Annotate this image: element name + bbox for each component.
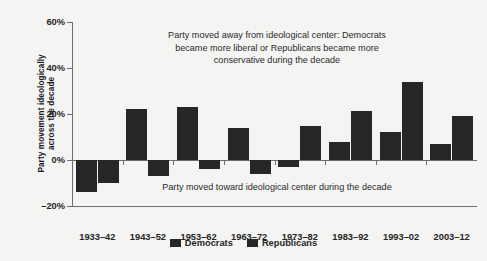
bar-republicans-1973–82	[300, 126, 321, 161]
x-tick-mark	[275, 160, 276, 165]
x-tick-mark	[325, 160, 326, 165]
y-tick-mark	[67, 160, 72, 161]
x-tick-mark	[173, 160, 174, 165]
x-tick-mark	[123, 160, 124, 165]
bar-democrats-1973–82	[278, 160, 299, 167]
y-tick-mark	[67, 22, 72, 23]
y-axis-line	[72, 22, 73, 206]
legend-item-democrats[interactable]: Democrats	[170, 238, 233, 248]
annotation-above-line-1: Party moved away from ideological center…	[112, 29, 442, 42]
legend-label: Democrats	[185, 238, 233, 248]
bar-democrats-1953–62	[177, 107, 198, 160]
x-axis-line	[72, 206, 477, 207]
bar-democrats-1983–92	[329, 142, 350, 160]
bar-republicans-2003–12	[452, 116, 473, 160]
bar-republicans-1933–42	[98, 160, 119, 183]
y-tick-mark	[67, 68, 72, 69]
y-tick-label: 40%	[46, 63, 65, 73]
y-tick-mark	[67, 206, 72, 207]
legend-item-republicans[interactable]: Republicans	[247, 238, 317, 248]
y-tick-label: –20%	[41, 201, 65, 211]
bar-democrats-1933–42	[76, 160, 97, 192]
x-tick-mark	[376, 160, 377, 165]
bar-republicans-1953–62	[199, 160, 220, 169]
y-tick-label: 0%	[52, 155, 65, 165]
chart-figure: Party movement ideologically across the …	[0, 0, 487, 261]
bar-republicans-1963–72	[250, 160, 271, 174]
annotation-above-line-2: became more liberal or Republicans becam…	[112, 42, 442, 55]
bar-democrats-2003–12	[430, 144, 451, 160]
bar-democrats-1963–72	[228, 128, 249, 160]
bar-democrats-1993–02	[380, 132, 401, 160]
legend-swatch-icon	[170, 239, 181, 247]
bar-democrats-1943–52	[126, 109, 147, 160]
y-tick-label: 20%	[46, 109, 65, 119]
annotation-below-center: Party moved toward ideological center du…	[107, 182, 447, 192]
y-tick-mark	[67, 114, 72, 115]
plot-area: –20%0%20%40%60% Party moved away from id…	[72, 22, 477, 206]
x-tick-mark	[426, 160, 427, 165]
chart-legend: DemocratsRepublicans	[0, 238, 487, 248]
bar-republicans-1983–92	[351, 111, 372, 160]
annotation-above-center: Party moved away from ideological center…	[112, 29, 442, 67]
legend-swatch-icon	[247, 239, 258, 247]
x-tick-mark	[224, 160, 225, 165]
legend-label: Republicans	[262, 238, 317, 248]
y-tick-label: 60%	[46, 17, 65, 27]
annotation-above-line-3: conservative during the decade	[112, 54, 442, 67]
bar-republicans-1993–02	[402, 82, 423, 160]
bar-republicans-1943–52	[148, 160, 169, 176]
